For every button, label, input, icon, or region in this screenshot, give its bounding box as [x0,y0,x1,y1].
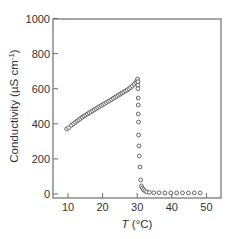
y-tick-label: 200 [32,153,50,165]
y-tick-label: 1000 [26,13,50,25]
data-point [137,154,141,158]
y-tick-label: 400 [32,118,50,130]
data-point [136,103,140,107]
plot-border [53,19,221,198]
data-point [137,144,141,148]
y-tick-label: 0 [44,188,50,200]
data-point [136,112,140,116]
data-point [136,96,140,100]
data-point [137,120,141,124]
data-point [136,87,140,91]
data-point [137,133,141,137]
x-tick-label: 20 [96,201,108,213]
x-tick-label: 10 [62,201,74,213]
data-point [157,191,161,195]
x-tick-label: 40 [166,201,178,213]
data-point [163,191,167,195]
x-tick-label: 30 [131,201,143,213]
data-point [169,191,173,195]
data-point [175,191,179,195]
data-point [152,191,156,195]
data-point [198,191,202,195]
x-tick-label: 50 [200,201,212,213]
conductivity-chart: 02004006008001000 1020304050 Conductivit… [0,0,234,239]
data-point [138,165,142,169]
data-points [65,77,202,195]
data-point [147,191,151,195]
data-point [187,191,191,195]
x-axis-label: T (°C) [122,218,153,230]
y-tick-label: 800 [32,48,50,60]
y-axis-label: Conductivity (µS cm-1) [7,49,20,163]
x-axis-ticks: 1020304050 [62,193,213,213]
data-point [192,191,196,195]
plot-frame [53,19,221,198]
data-point [181,191,185,195]
data-point [139,178,143,182]
y-tick-label: 600 [32,83,50,95]
